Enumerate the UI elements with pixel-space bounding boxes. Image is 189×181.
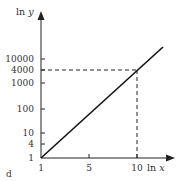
- y-tick-label: 100: [0, 104, 34, 114]
- y-tick-label: 1: [0, 153, 34, 163]
- y-axis-label: ln y: [16, 7, 34, 17]
- x-ticks: [89, 154, 137, 158]
- x-axis-arrow-icon: [166, 155, 175, 162]
- panel-label: d: [6, 169, 12, 179]
- y-tick-label: 4000: [0, 65, 34, 75]
- y-axis-arrow-icon: [38, 11, 45, 20]
- y-axis-label-var: y: [28, 6, 33, 17]
- y-ticks: [41, 59, 45, 144]
- data-line: [41, 47, 163, 158]
- x-tick-label: 1: [31, 163, 51, 173]
- y-tick-label: 10000: [0, 54, 34, 64]
- y-tick-label: 4: [0, 139, 34, 149]
- x-tick-label: 5: [79, 163, 99, 173]
- y-tick-label: 1000: [0, 78, 34, 88]
- x-axis-label-var: x: [159, 162, 164, 173]
- x-axis-label-prefix: ln: [147, 162, 156, 173]
- y-tick-label: 10: [0, 128, 34, 138]
- y-axis-label-prefix: ln: [16, 6, 25, 17]
- x-axis-label: ln x: [147, 163, 165, 173]
- x-tick-label: 10: [127, 163, 147, 173]
